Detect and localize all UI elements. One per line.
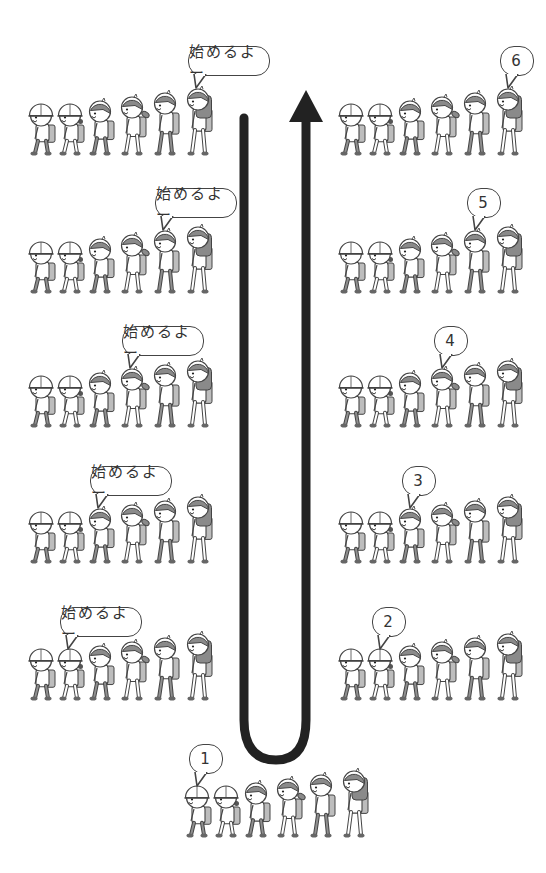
child-tall-boy xyxy=(460,635,494,705)
child-ponytail-girl xyxy=(427,94,461,160)
row-L2: 始めるよー xyxy=(28,218,228,298)
child-boy xyxy=(396,643,428,705)
child-small-hat-girl xyxy=(57,647,87,705)
row-R2: 2 xyxy=(338,625,538,705)
child-small-hat-boy xyxy=(338,510,368,568)
child-boy xyxy=(86,506,118,568)
child-small-hat-girl xyxy=(57,374,87,432)
child-small-hat-boy xyxy=(28,102,58,160)
child-small-hat-boy xyxy=(338,647,368,705)
child-boy xyxy=(396,236,428,298)
child-boy xyxy=(242,780,274,842)
child-tall-girl xyxy=(183,631,217,705)
child-tall-girl xyxy=(493,86,527,160)
child-boy xyxy=(86,643,118,705)
child-tall-girl xyxy=(183,358,217,432)
child-small-hat-girl xyxy=(367,240,397,298)
row-R6: 6 xyxy=(338,80,538,160)
child-ponytail-girl xyxy=(427,366,461,432)
bubble-text: 5 xyxy=(478,194,490,212)
child-tall-girl xyxy=(493,224,527,298)
row-R3: 3 xyxy=(338,488,538,568)
child-ponytail-girl xyxy=(117,639,151,705)
bubble-text: 2 xyxy=(383,613,395,631)
child-tall-girl xyxy=(183,224,217,298)
row-L4: 始めるよー xyxy=(28,488,228,568)
child-ponytail-girl xyxy=(117,232,151,298)
child-ponytail-girl xyxy=(427,502,461,568)
bubble-text: 3 xyxy=(413,472,425,490)
child-small-hat-boy xyxy=(28,374,58,432)
child-boy xyxy=(86,236,118,298)
child-tall-girl xyxy=(339,768,373,842)
child-small-hat-girl xyxy=(213,784,243,842)
child-small-hat-boy xyxy=(28,647,58,705)
child-tall-boy xyxy=(150,498,184,568)
child-small-hat-girl xyxy=(367,102,397,160)
child-tall-boy xyxy=(460,228,494,298)
child-boy xyxy=(396,98,428,160)
child-tall-boy xyxy=(150,228,184,298)
child-small-hat-boy xyxy=(338,240,368,298)
child-small-hat-boy xyxy=(28,240,58,298)
child-small-hat-girl xyxy=(367,647,397,705)
child-small-hat-boy xyxy=(28,510,58,568)
child-tall-girl xyxy=(183,494,217,568)
child-tall-boy xyxy=(150,635,184,705)
child-tall-boy xyxy=(460,90,494,160)
child-boy xyxy=(396,506,428,568)
child-ponytail-girl xyxy=(117,502,151,568)
row-R4: 4 xyxy=(338,352,538,432)
row-L1: 始めるよー xyxy=(28,80,228,160)
child-small-hat-boy xyxy=(184,784,214,842)
child-tall-boy xyxy=(306,772,340,842)
child-tall-boy xyxy=(460,498,494,568)
child-boy xyxy=(396,370,428,432)
child-tall-girl xyxy=(183,86,217,160)
child-small-hat-boy xyxy=(338,102,368,160)
child-small-hat-girl xyxy=(57,102,87,160)
child-tall-girl xyxy=(493,631,527,705)
row-L5: 始めるよー xyxy=(28,625,228,705)
bubble-text: 1 xyxy=(200,750,212,768)
child-tall-boy xyxy=(460,362,494,432)
child-tall-girl xyxy=(493,494,527,568)
row-R5: 5 xyxy=(338,218,538,298)
child-small-hat-girl xyxy=(367,510,397,568)
child-small-hat-boy xyxy=(338,374,368,432)
child-ponytail-girl xyxy=(117,94,151,160)
child-tall-girl xyxy=(493,358,527,432)
child-small-hat-girl xyxy=(57,510,87,568)
child-tall-boy xyxy=(150,90,184,160)
child-tall-boy xyxy=(150,362,184,432)
child-small-hat-girl xyxy=(57,240,87,298)
child-boy xyxy=(86,370,118,432)
row-L3: 始めるよー xyxy=(28,352,228,432)
child-ponytail-girl xyxy=(427,232,461,298)
bubble-text: 4 xyxy=(445,332,457,350)
child-ponytail-girl xyxy=(117,366,151,432)
bubble-text: 6 xyxy=(511,52,523,70)
arrowhead-icon xyxy=(289,90,323,122)
child-ponytail-girl xyxy=(427,639,461,705)
child-ponytail-girl xyxy=(273,776,307,842)
row-bottom: 1 xyxy=(184,762,384,842)
child-boy xyxy=(86,98,118,160)
child-small-hat-girl xyxy=(367,374,397,432)
